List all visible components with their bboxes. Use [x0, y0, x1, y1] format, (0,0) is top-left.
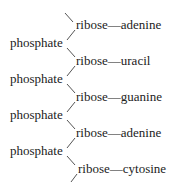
sugar-label: ribose: [76, 17, 108, 32]
base-label: adenine: [121, 17, 161, 32]
bond-dash: —: [108, 53, 121, 68]
bond-line: [67, 156, 75, 165]
sugar-label: ribose: [76, 125, 108, 140]
bond-line: [65, 13, 73, 22]
base-label: guanine: [121, 89, 162, 104]
sugar-label: ribose: [76, 89, 108, 104]
base-label: adenine: [121, 125, 161, 140]
sugar-label: ribose: [78, 161, 110, 176]
bond-line: [67, 102, 75, 112]
phosphate-label: phosphate: [10, 36, 63, 49]
bond-dash: —: [108, 17, 121, 32]
bond-line: [67, 84, 75, 93]
nucleotide-row: ribose—uracil: [76, 54, 150, 67]
phosphate-label: phosphate: [10, 72, 63, 85]
bond-dash: —: [108, 125, 121, 140]
bond-line: [67, 120, 75, 129]
phosphate-label: phosphate: [10, 108, 63, 121]
bond-line: [67, 138, 75, 148]
base-label: uracil: [121, 53, 151, 68]
sugar-label: ribose: [76, 53, 108, 68]
bond-dash: —: [108, 89, 121, 104]
bond-line: [71, 174, 77, 182]
bond-line: [67, 66, 75, 76]
nucleotide-row: ribose—adenine: [76, 18, 161, 31]
nucleotide-row: ribose—adenine: [76, 126, 161, 139]
base-label: cytosine: [123, 161, 166, 176]
rna-backbone-diagram: ribose—adenine phosphate ribose—uracil p…: [0, 0, 178, 190]
phosphate-label: phosphate: [10, 144, 63, 157]
bond-dash: —: [110, 161, 123, 176]
nucleotide-row: ribose—guanine: [76, 90, 162, 103]
bond-line: [67, 30, 75, 40]
nucleotide-row: ribose—cytosine: [78, 162, 166, 175]
bond-line: [67, 48, 75, 57]
